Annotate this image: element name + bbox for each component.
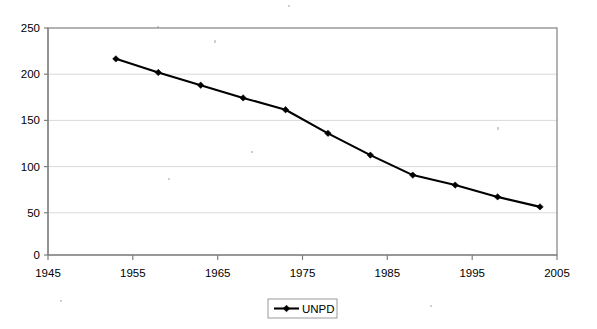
y-tick-label: 0 (34, 249, 40, 261)
y-tick-label: 200 (21, 68, 40, 80)
y-tick-label: 250 (21, 22, 40, 34)
x-tick-label: 1955 (120, 267, 146, 279)
legend: UNPD (268, 299, 337, 318)
x-tick-label: 1995 (459, 267, 485, 279)
chart-background (0, 0, 597, 329)
chart-canvas: 250 200 150 100 50 0 1945 1955 1965 1975… (0, 0, 597, 329)
x-tick-label: 1975 (290, 267, 316, 279)
line-chart: 250 200 150 100 50 0 1945 1955 1965 1975… (0, 0, 597, 329)
y-tick-label: 150 (21, 114, 40, 126)
x-tick-label: 1965 (205, 267, 231, 279)
x-tick-label: 1985 (375, 267, 401, 279)
x-tick-label: 2005 (544, 267, 570, 279)
y-tick-label: 100 (21, 161, 40, 173)
legend-entry-label: UNPD (302, 303, 335, 315)
x-tick-label: 1945 (35, 267, 61, 279)
y-tick-label: 50 (27, 207, 40, 219)
